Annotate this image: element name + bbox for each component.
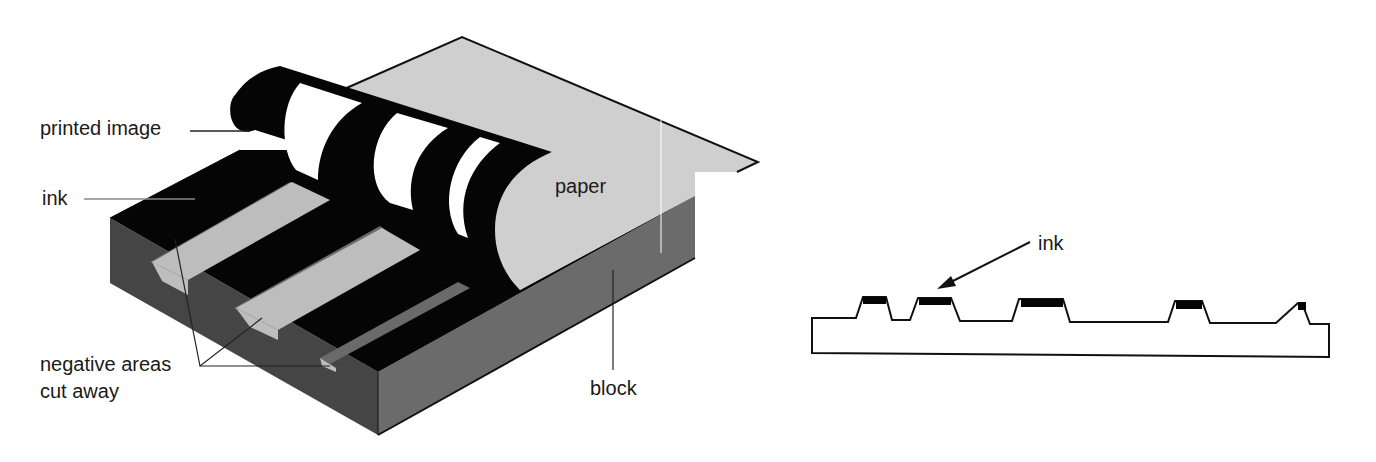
ink-arrow: [945, 242, 1030, 285]
ink-layer-2: [919, 298, 951, 305]
cross-section-illustration: ink: [812, 232, 1329, 357]
label-paper: paper: [555, 175, 606, 197]
ink-layer-3: [1021, 299, 1063, 307]
ink-layer-1: [863, 297, 886, 304]
ink-layer-5: [1298, 302, 1306, 310]
label-block: block: [590, 377, 638, 399]
cross-section-outline: [812, 297, 1329, 357]
label-negative-areas: negative areas: [40, 353, 171, 375]
ink-layer-4: [1176, 301, 1202, 309]
label-ink: ink: [42, 187, 69, 209]
label-ink-cross-section: ink: [1038, 232, 1065, 254]
relief-printing-figure: printed image ink paper negative areas c…: [0, 0, 1376, 462]
relief-block-illustration: printed image ink paper negative areas c…: [40, 37, 758, 435]
arrow-head-icon: [937, 276, 956, 289]
label-printed-image: printed image: [40, 117, 161, 139]
label-cut-away: cut away: [40, 380, 119, 402]
